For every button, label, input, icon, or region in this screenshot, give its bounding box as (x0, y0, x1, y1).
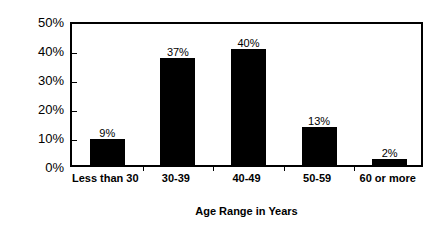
bar (372, 159, 407, 165)
x-axis-category-label: Less than 30 (70, 171, 141, 185)
y-axis-tick-mark (72, 140, 77, 141)
bar-value-label: 37% (143, 47, 214, 58)
x-axis-category-label: 60 or more (352, 171, 423, 185)
y-axis-tick-label: 50% (22, 16, 64, 29)
bar-value-label: 2% (354, 148, 425, 159)
plot-area: 9%37%40%13%2% (70, 22, 423, 167)
x-axis-category-label: 50-59 (282, 171, 353, 185)
x-axis-title: Age Range in Years (70, 205, 423, 218)
bar-chart: Percent 0%10%20%30%40%50% 9%37%40%13%2% … (0, 0, 443, 226)
x-axis-category-label: 40-49 (211, 171, 282, 185)
bar (302, 127, 337, 165)
bar-value-label: 13% (284, 116, 355, 127)
bar (160, 58, 195, 165)
y-axis-tick-label: 40% (22, 45, 64, 58)
bar (231, 49, 266, 165)
bar-value-label: 40% (213, 38, 284, 49)
x-axis-category-label: 30-39 (141, 171, 212, 185)
y-axis-tick-label: 30% (22, 74, 64, 87)
y-axis-tick-mark (72, 82, 77, 83)
y-axis-tick-mark (72, 53, 77, 54)
y-axis-tick-label-group: 0%10%20%30%40%50% (22, 22, 64, 167)
y-axis-tick-label: 0% (22, 161, 64, 174)
bar-value-label: 9% (72, 128, 143, 139)
y-axis-tick-label: 20% (22, 103, 64, 116)
y-axis-tick-mark (72, 111, 77, 112)
y-axis-tick-label: 10% (22, 132, 64, 145)
x-axis-category-label-group: Less than 3030-3940-4950-5960 or more (70, 171, 423, 205)
bar (90, 139, 125, 165)
